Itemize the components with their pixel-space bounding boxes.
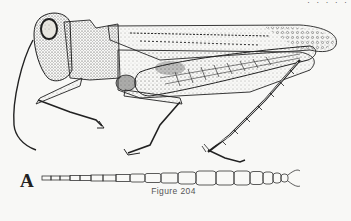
document-page: · · · · · [0,0,351,221]
figure-caption: Figure 204 [0,186,351,196]
antenna [14,40,36,150]
figure-caption-text: Figure 204 [151,186,196,196]
antenna-segments-detail [42,170,300,186]
front-leg [36,78,82,104]
pronotum [64,20,120,80]
